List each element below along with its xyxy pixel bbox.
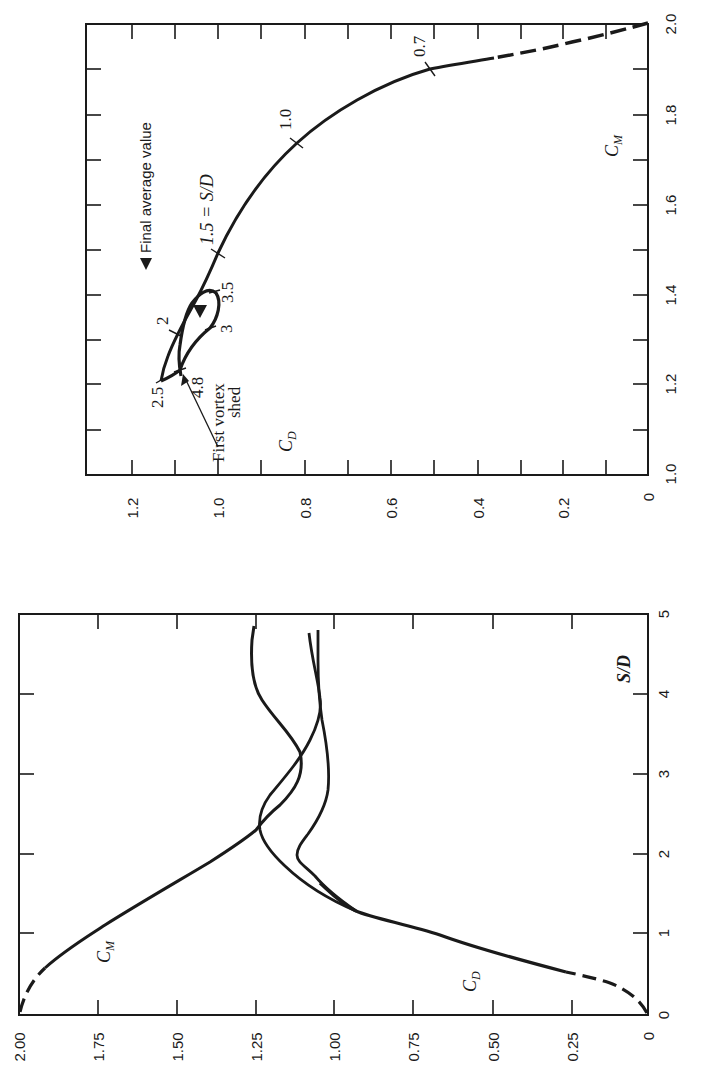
- top-chart-right-ticks: [633, 69, 648, 430]
- tick-label: 0.6: [383, 498, 400, 519]
- cd-curve: [320, 883, 566, 972]
- bottom-chart-sd-tick-labels: 0 1 2 3 4 5: [655, 610, 672, 1019]
- tick-label: 1.6: [662, 195, 679, 216]
- first-vortex-label-line2: shed: [225, 386, 244, 418]
- tick-label: 0: [640, 493, 657, 501]
- cd-axis-label: CD: [276, 431, 299, 452]
- tick-label: 1.25: [248, 1032, 265, 1061]
- tick-label: 2: [655, 850, 672, 858]
- top-chart-left-ticks: [86, 69, 101, 430]
- point-label-2: 2: [153, 317, 172, 326]
- cd-branch-b: [297, 630, 356, 911]
- tick-label: 1.8: [662, 105, 679, 126]
- tick-label: 0.75: [405, 1032, 422, 1061]
- bottom-chart: 2.00 1.75 1.50 1.25 1.00 0.75 0.50 0.25 …: [11, 610, 672, 1062]
- top-chart-frame: [86, 24, 648, 475]
- cm-curve: [45, 626, 301, 968]
- cm-curve-dashed: [20, 968, 45, 1012]
- tick-label: 0.2: [555, 498, 572, 519]
- tick-label: 1.2: [662, 374, 679, 395]
- cm-axis-label: CM: [602, 134, 625, 157]
- legend-final-average-value: Final average value: [137, 122, 154, 253]
- top-chart-bottom-ticks: [132, 460, 606, 475]
- cm-curve-label: CM: [94, 940, 117, 963]
- point-label-0-7: 0.7: [410, 35, 429, 57]
- tick-label: 2.00: [11, 1032, 28, 1061]
- cd-curve-label: CD: [460, 971, 483, 992]
- cd-curve-dashed: [566, 972, 647, 1013]
- tick-label: 2.0: [662, 14, 679, 35]
- tick-label: 1.50: [169, 1032, 186, 1061]
- tick-label: 1.75: [90, 1032, 107, 1061]
- figure: 1.2 1.0 0.8 0.6 0.4 0.2 0 1.0 1.2 1.4 1.…: [0, 0, 703, 1081]
- tick-label: 1.4: [662, 285, 679, 306]
- tick-label: 0: [655, 1011, 672, 1019]
- tick-label: 0.8: [297, 498, 314, 519]
- tick-label: 0.4: [470, 498, 487, 519]
- cm-cd-curve-dashed: [494, 23, 648, 58]
- tick-label: 4: [655, 690, 672, 698]
- final-average-marker: [193, 305, 207, 318]
- triangle-icon: [140, 258, 152, 270]
- point-label-4-8: 4.8: [188, 377, 207, 398]
- sd-axis-label: S/D: [614, 655, 634, 683]
- top-chart-cm-tick-labels: 1.0 1.2 1.4 1.6 1.8 2.0: [662, 14, 679, 485]
- tick-label: 1: [655, 929, 672, 937]
- tick-label: 5: [655, 610, 672, 618]
- point-label-2-5: 2.5: [148, 387, 167, 408]
- sd-annotation: 1.5 = S/D: [197, 174, 217, 245]
- cm-cd-loop: [161, 290, 219, 381]
- point-label-1-0: 1.0: [276, 109, 295, 130]
- point-label-3: 3: [217, 325, 236, 334]
- tick-label: 3: [655, 770, 672, 778]
- top-chart-cd-tick-labels: 1.2 1.0 0.8 0.6 0.4 0.2 0: [124, 493, 657, 519]
- tick-label: 1.00: [326, 1032, 343, 1061]
- tick-label: 1.2: [124, 498, 141, 519]
- tick-label: 1.0: [210, 498, 227, 519]
- bottom-chart-value-tick-labels: 2.00 1.75 1.50 1.25 1.00 0.75 0.50 0.25 …: [11, 1032, 657, 1062]
- top-chart-top-ticks: [132, 24, 606, 39]
- tick-label: 0.50: [485, 1032, 502, 1061]
- top-chart: 1.2 1.0 0.8 0.6 0.4 0.2 0 1.0 1.2 1.4 1.…: [86, 14, 679, 519]
- tick-label: 0: [640, 1032, 657, 1040]
- tick-label: 1.0: [662, 464, 679, 485]
- point-label-3-5: 3.5: [218, 282, 237, 303]
- tick-label: 0.25: [564, 1032, 581, 1061]
